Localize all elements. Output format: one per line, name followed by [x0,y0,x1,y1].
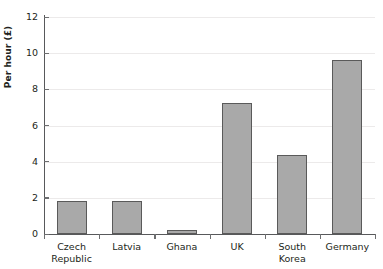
x-axis-tick-label-germany: Germany [320,241,375,253]
y-axis-tick-label: 6 [8,121,38,131]
gridline [44,53,375,54]
y-axis-tick-label: 0 [8,229,38,239]
bar-uk[interactable] [222,103,252,234]
y-axis-tick [44,125,49,126]
x-axis-tick-label-ghana: Ghana [154,241,209,253]
x-axis-tick [154,234,155,239]
x-axis-tick-label-uk: UK [210,241,265,253]
y-axis-tick-label: 12 [8,12,38,22]
bar-ghana[interactable] [167,230,197,234]
gridline [44,198,375,199]
gridline [44,17,375,18]
x-axis-tick [265,234,266,239]
x-axis-tick-label-line: Latvia [99,241,154,253]
y-axis-tick-label: 10 [8,48,38,58]
x-axis-tick-label-latvia: Latvia [99,241,154,253]
y-axis-tick [44,197,49,198]
bar-czech-republic[interactable] [57,201,87,234]
x-axis-tick-label-south-korea: SouthKorea [265,241,320,264]
y-axis-tick [44,89,49,90]
gridline [44,162,375,163]
x-axis-tick-label-line: UK [210,241,265,253]
x-axis-tick-label-line: Ghana [154,241,209,253]
x-axis-tick-label-czech-republic: CzechRepublic [44,241,99,264]
x-axis-tick-label-line: Korea [265,253,320,265]
x-axis-tick [99,234,100,239]
plot-area [44,17,375,234]
x-axis-tick [375,234,376,239]
x-axis-tick [210,234,211,239]
y-axis-tick-label: 2 [8,193,38,203]
x-axis-tick [44,234,45,239]
bar-latvia[interactable] [112,201,142,234]
bar-germany[interactable] [332,60,362,234]
x-axis-tick [320,234,321,239]
gridline [44,89,375,90]
bar-chart: Per hour (£) 024681012CzechRepublicLatvi… [0,0,383,269]
x-axis-tick-label-line: Czech [44,241,99,253]
y-axis-tick [44,17,49,18]
y-axis-tick [44,53,49,54]
x-axis-tick-label-line: Germany [320,241,375,253]
y-axis-tick-label: 8 [8,84,38,94]
gridline [44,126,375,127]
x-axis-tick-label-line: Republic [44,253,99,265]
y-axis-tick-label: 4 [8,157,38,167]
y-axis-tick [44,161,49,162]
bar-south-korea[interactable] [277,155,307,234]
x-axis-tick-label-line: South [265,241,320,253]
